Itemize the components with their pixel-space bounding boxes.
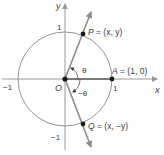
angle-neg-theta-label: −θ <box>78 89 88 98</box>
point-a-label: A = (1, 0) <box>111 66 147 76</box>
point-a <box>110 77 115 82</box>
point-q <box>81 122 86 127</box>
tick-y-pos: 1 <box>57 23 62 32</box>
point-origin <box>62 76 67 81</box>
point-p-coords: = (x, y) <box>96 27 122 37</box>
x-axis-label: x <box>154 85 160 95</box>
point-p <box>81 32 86 37</box>
y-axis-label: y <box>55 1 61 11</box>
ray-op <box>65 12 91 79</box>
point-q-coords: = (x, −y) <box>97 121 128 131</box>
angle-theta-label: θ <box>82 66 87 75</box>
origin-label: O <box>55 83 62 93</box>
point-q-name: Q <box>88 121 95 131</box>
unit-circle-diagram: y x 1 −1 1 −1 O P = (x, y) A = (1, 0) Q … <box>0 0 164 155</box>
point-p-label: P = (x, y) <box>88 27 122 37</box>
point-p-name: P <box>88 27 94 37</box>
tick-y-neg: −1 <box>51 133 61 142</box>
tick-x-neg: −1 <box>3 83 13 92</box>
point-q-label: Q = (x, −y) <box>88 121 128 131</box>
angle-theta-arc <box>71 68 78 79</box>
point-a-name: A <box>111 66 118 76</box>
point-a-coords: = (1, 0) <box>120 66 147 76</box>
tick-x-pos: 1 <box>113 84 118 93</box>
